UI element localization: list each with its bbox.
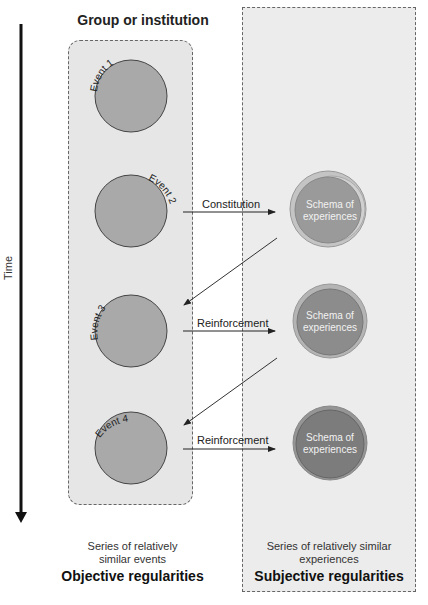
caption-line2: similar events — [60, 553, 205, 566]
event-circle-1: Event 1 — [88, 56, 167, 132]
event-circle-4: Event 4 — [93, 412, 167, 484]
schema-label-line2: experiences — [303, 211, 357, 222]
diagram-canvas: Event 1 Event 2 Event 3 Event 4 Schema o… — [0, 0, 428, 605]
caption-line1: Series of relatively similar — [242, 540, 416, 553]
time-arrow-icon — [15, 24, 27, 523]
schema-circle-1: Schema of experiences — [290, 171, 366, 247]
caption-title: Subjective regularities — [242, 568, 416, 584]
objective-caption: Series of relatively similar events Obje… — [60, 540, 205, 584]
reinforcement-label: Reinforcement — [197, 317, 269, 329]
time-axis-label: Time — [2, 256, 14, 280]
schema-label-line1: Schema of — [306, 432, 354, 443]
schema-label-line1: Schema of — [306, 310, 354, 321]
constitution-label: Constitution — [202, 198, 260, 210]
caption-line2: experiences — [242, 553, 416, 566]
event-circle-2: Event 2 — [95, 172, 179, 247]
subjective-caption: Series of relatively similar experiences… — [242, 540, 416, 584]
schema-label-line1: Schema of — [306, 199, 354, 210]
schema-circle-3: Schema of experiences — [293, 406, 367, 480]
feedback-arrow-icon — [184, 238, 277, 305]
event-circle-3: Event 3 — [88, 295, 167, 367]
reinforcement-label: Reinforcement — [197, 434, 269, 446]
schema-label-line2: experiences — [303, 322, 357, 333]
caption-title: Objective regularities — [60, 568, 205, 584]
feedback-arrow-icon — [184, 358, 277, 425]
caption-line1: Series of relatively — [60, 540, 205, 553]
schema-label-line2: experiences — [303, 444, 357, 455]
schema-circle-2: Schema of experiences — [293, 284, 367, 358]
